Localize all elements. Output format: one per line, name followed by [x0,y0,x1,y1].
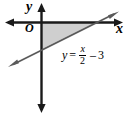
equation-equals-sign: = [69,49,76,61]
fraction-numerator: x [79,44,85,55]
equation-label: y = x 2 – 3 [62,44,104,66]
y-axis [37,3,45,113]
origin-label: O [25,22,34,34]
y-axis-label: y [26,0,32,14]
x-axis-label: x [116,22,123,36]
fraction-denominator: 2 [79,56,86,67]
equation-minus-sign: – [90,49,96,61]
equation-fraction: x 2 [79,44,86,66]
equation-lhs: y [62,49,67,61]
coordinate-plane-figure: y x O y = x 2 – 3 [0,0,126,117]
equation-constant: 3 [98,49,104,61]
